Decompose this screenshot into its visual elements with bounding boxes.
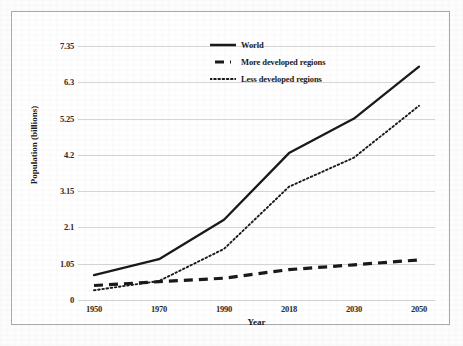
legend-label: Less developed regions (241, 74, 322, 84)
y-tick-label: 6.3 (64, 77, 74, 87)
legend-item[interactable]: World (210, 36, 380, 53)
y-tick-label: 1.05 (60, 259, 74, 269)
x-tick-label: 1950 (86, 304, 102, 314)
legend-label: More developed regions (241, 57, 325, 67)
x-tick-label: 1970 (151, 304, 167, 314)
x-axis-tick-labels: 195019701990201820302050 (78, 304, 435, 318)
legend-label: World (241, 40, 264, 50)
gridline (78, 300, 435, 301)
x-tick-label: 2018 (281, 304, 297, 314)
chart-legend: WorldMore developed regionsLess develope… (210, 36, 380, 87)
chart-frame: Population (billions) 01.052.13.154.25.2… (11, 11, 450, 325)
legend-line-icon (210, 40, 236, 50)
legend-item[interactable]: More developed regions (210, 53, 380, 70)
y-axis-tick-labels: 01.052.13.154.25.256.37.35 (40, 46, 74, 300)
y-tick-label: 5.25 (60, 114, 74, 124)
legend-item[interactable]: Less developed regions (210, 70, 380, 87)
chart-figure: Population (billions) 01.052.13.154.25.2… (0, 0, 463, 346)
y-tick-label: 2.1 (64, 222, 74, 232)
legend-line-icon (210, 74, 236, 84)
legend-line-icon (210, 57, 236, 67)
series-line-solid (94, 67, 419, 275)
x-axis-title: Year (78, 317, 435, 327)
x-tick-label: 2030 (346, 304, 362, 314)
y-tick-label: 3.15 (60, 186, 74, 196)
x-tick-label: 1990 (216, 304, 232, 314)
y-tick-label: 4.2 (64, 150, 74, 160)
y-tick-label: 7.35 (60, 41, 74, 51)
x-tick-label: 2050 (411, 304, 427, 314)
y-tick-label: 0 (70, 295, 74, 305)
y-axis-title: Population (billions) (29, 90, 39, 200)
